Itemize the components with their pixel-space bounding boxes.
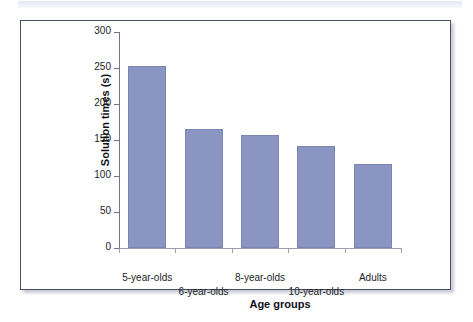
plot-area: 050100150200250300 [119, 32, 419, 248]
x-axis-label: 6-year-olds [179, 286, 229, 297]
y-tick-mark [114, 104, 119, 105]
y-axis-line [119, 32, 120, 248]
y-tick-label: 50 [100, 205, 111, 216]
x-tick-mark [119, 248, 120, 253]
y-tick-label: 300 [94, 25, 111, 36]
x-axis-label: 10-year-olds [289, 286, 345, 297]
x-axis-label: Adults [359, 272, 387, 283]
page-top-strip [18, 1, 462, 8]
y-tick-mark [114, 212, 119, 213]
bar [185, 129, 223, 248]
x-tick-mark [175, 248, 176, 253]
bar [297, 146, 335, 248]
figure-card: 050100150200250300 Solution times (s) 5-… [20, 20, 451, 290]
y-tick-mark [114, 32, 119, 33]
bar [241, 135, 279, 248]
bar [354, 164, 392, 248]
y-tick-mark [114, 140, 119, 141]
y-tick-label: 0 [105, 241, 111, 252]
x-axis-label: 8-year-olds [235, 272, 285, 283]
y-tick-mark [114, 176, 119, 177]
x-tick-mark [288, 248, 289, 253]
x-axis-line [119, 248, 401, 249]
bar [128, 66, 166, 248]
x-tick-mark [232, 248, 233, 253]
x-tick-mark [345, 248, 346, 253]
y-tick-mark [114, 68, 119, 69]
x-axis-title: Age groups [139, 298, 421, 310]
x-tick-mark [401, 248, 402, 253]
y-axis-title: Solution times (s) [99, 50, 111, 190]
x-axis-label: 5-year-olds [122, 272, 172, 283]
